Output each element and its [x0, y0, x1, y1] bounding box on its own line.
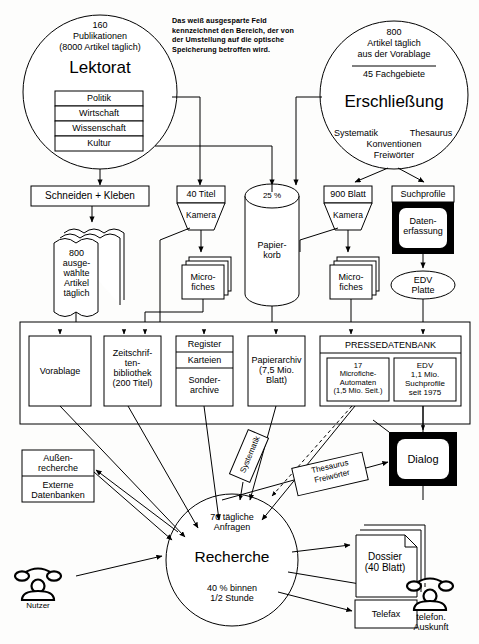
subject-label-kultur: Kultur	[55, 136, 143, 151]
aussenrecherche-label: Außen- recherche	[22, 453, 94, 473]
lektorat-line2: Publikationen	[35, 31, 165, 41]
zeitschriftenbibliothek-label: Zeitschrif- ten- bibliothek (200 Titel)	[104, 348, 161, 388]
erschliessung-count: 800	[334, 27, 454, 37]
datenerfassung-label: Daten- erfassung	[399, 216, 447, 236]
papierkorb-label: Papier- korb	[245, 240, 299, 260]
dossier-label: Dossier (40 Blatt)	[356, 551, 414, 573]
microfiche-automaten-label: 17 Microfiche- Automaten (1,5 Mio. Seit.…	[327, 362, 389, 396]
sonderarchive-label: Sonder- archive	[176, 375, 233, 395]
subject-label-wirtschaft: Wirtschaft	[55, 106, 143, 121]
recherche-anfragen: 70 tägliche Anfragen	[182, 512, 282, 532]
microfiches-right-label: Micro- fiches	[330, 272, 372, 292]
erschliessung-heading: Erschließung	[324, 92, 464, 111]
recherche-heading: Recherche	[177, 548, 287, 565]
karteien-label: Karteien	[176, 352, 233, 368]
edv-platte-label: EDV Platte	[396, 275, 450, 295]
register-label: Register	[176, 336, 233, 352]
pressedatenbank-label: PRESSEDATENBANK	[320, 337, 461, 353]
kamera-left-label: Kamera	[179, 211, 223, 221]
nutzer-label: Nutzer	[10, 602, 66, 611]
nutzer-phone-icon	[15, 569, 61, 601]
titel-40-label: 40 Titel	[177, 186, 225, 203]
explanatory-note: Das weiß ausgesparte Feld kennzeichnet d…	[172, 16, 322, 54]
diagram-canvas: Das weiß ausgesparte Feld kennzeichnet d…	[0, 0, 479, 644]
vorablage-label: Vorablage	[29, 336, 91, 406]
telefon-auskunft-label: telefon. Auskunft	[400, 612, 462, 632]
papierarchiv-label: Papierarchiv (7,5 Mio. Blatt)	[248, 355, 305, 385]
schneiden-kleben-label: Schneiden + Kleben	[31, 186, 149, 206]
suchprofile-label: Suchprofile	[392, 186, 454, 202]
lektorat-line3: (8000 Artikel täglich)	[28, 42, 172, 52]
dialog-label: Dialog	[397, 439, 449, 479]
edv-suchprofile-label: EDV 1,1 Mio. Suchprofile seit 1975	[394, 362, 456, 398]
artikel-stack-label: 800 ausge- wählte Artikel täglich	[54, 248, 99, 298]
erschliessung-freiwoerter: Freiwörter	[334, 150, 454, 160]
erschliessung-konventionen: Konventionen	[334, 139, 454, 149]
microfiches-left-label: Micro- fiches	[182, 272, 224, 292]
lektorat-count: 160	[35, 20, 165, 30]
erschliessung-line3: aus der Vorablage	[334, 49, 454, 59]
erschliessung-fachgebiete: 45 Fachgebiete	[334, 69, 454, 79]
papierkorb-percent: 25 %	[245, 192, 299, 201]
subject-label-politik: Politik	[55, 91, 143, 106]
erschliessung-systematik: Systematik	[322, 128, 390, 138]
erschliessung-line2: Artikel täglich	[334, 38, 454, 48]
recherche-quote: 40 % binnen 1/2 Stunde	[182, 583, 282, 603]
externe-datenbanken-label: Externe Datenbanken	[20, 480, 96, 500]
kamera-right-label: Kamera	[326, 211, 370, 221]
lektorat-heading: Lektorat	[35, 58, 165, 77]
subject-label-wissenschaft: Wissenschaft	[55, 121, 143, 136]
blatt-900-label: 900 Blatt	[324, 186, 372, 203]
erschliessung-thesaurus: Thesaurus	[398, 128, 464, 138]
